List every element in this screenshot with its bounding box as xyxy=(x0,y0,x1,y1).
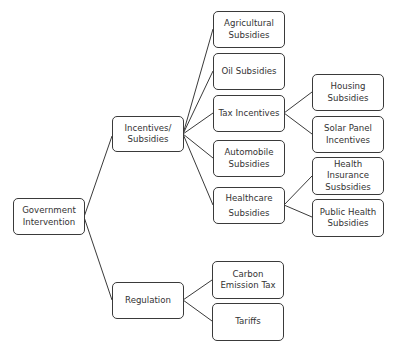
edge-reg-tariffs xyxy=(183,300,212,321)
edge-gov-reg xyxy=(84,217,112,300)
node-healthcare-subsidies: Healthcare Subsidies xyxy=(213,187,285,224)
edge-inc-auto xyxy=(183,134,213,158)
node-tariffs: Tariffs xyxy=(212,303,284,341)
node-government-intervention: Government Intervention xyxy=(13,198,85,235)
edge-health-hins xyxy=(284,176,312,205)
edge-tax-solar xyxy=(284,113,312,134)
node-public-health-subsidies: Public Health Subsidies xyxy=(312,199,384,237)
node-solar-panel-incentives: Solar Panel Incentives xyxy=(312,116,384,153)
edge-reg-carbon xyxy=(183,280,212,300)
diagram-canvas: Government Intervention Incentives/ Subs… xyxy=(0,0,395,353)
node-agricultural-subsidies: Agricultural Subsidies xyxy=(213,11,285,48)
node-carbon-emission-tax: Carbon Emission Tax xyxy=(212,261,284,299)
node-oil-subsidies: Oil Subsidies xyxy=(213,53,285,90)
node-housing-subsidies: Housing Subsidies xyxy=(312,74,384,111)
edge-inc-health xyxy=(183,134,213,205)
edge-tax-housing xyxy=(284,92,312,113)
edge-gov-inc xyxy=(84,136,112,217)
node-regulation: Regulation xyxy=(112,282,184,319)
node-incentives-subsidies: Incentives/ Subsidies xyxy=(112,116,184,152)
node-automobile-subsidies: Automobile Subsidies xyxy=(213,140,285,177)
node-tax-incentives: Tax Incentives xyxy=(213,95,285,132)
edge-health-phealth xyxy=(284,205,312,217)
node-health-insurance-subsidies: Health Insurance Susbsidies xyxy=(312,157,384,195)
